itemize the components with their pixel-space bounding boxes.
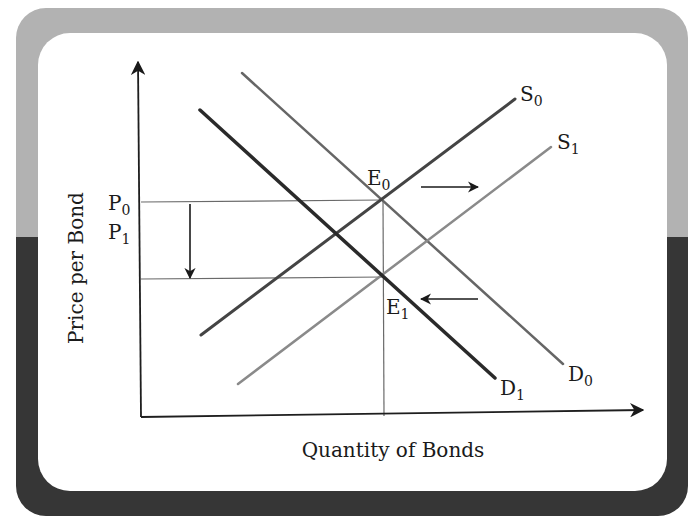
y-axis-label: Price per Bond (64, 192, 88, 344)
curve-label-d1: D1 (500, 378, 525, 402)
s1-main: S (557, 130, 571, 154)
price-label-p0: P0 (108, 193, 130, 217)
d1-sub: 1 (516, 387, 525, 403)
s0-main: S (520, 82, 534, 106)
p0-main: P (108, 191, 121, 215)
price-label-p1: P1 (108, 222, 130, 246)
x-axis-label: Quantity of Bonds (302, 438, 485, 462)
d0-sub: 0 (584, 373, 593, 389)
curve-label-d0: D0 (568, 364, 593, 388)
curve-label-s1: S1 (557, 132, 580, 156)
equilibrium-label-e1: E1 (386, 297, 410, 321)
curve-label-s0: S0 (520, 84, 543, 108)
p1-main: P (108, 220, 121, 244)
s0-sub: 0 (534, 93, 543, 109)
e0-main: E (367, 166, 382, 190)
p0-sub: 0 (121, 202, 130, 218)
e0-sub: 0 (382, 177, 391, 193)
p1-sub: 1 (121, 231, 130, 247)
d1-main: D (500, 376, 516, 400)
e1-main: E (386, 295, 401, 319)
s1-sub: 1 (571, 141, 580, 157)
d0-main: D (568, 362, 584, 386)
diagram-panel (38, 33, 667, 491)
e1-sub: 1 (401, 306, 410, 322)
equilibrium-label-e0: E0 (367, 168, 391, 192)
